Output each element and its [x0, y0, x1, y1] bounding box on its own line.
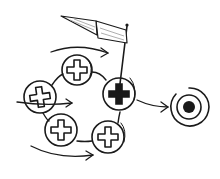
cycle-to-target-diagram — [0, 0, 220, 179]
exit-arrow-to-target — [137, 100, 168, 112]
diagram-canvas — [0, 0, 220, 179]
cross-node-5-flagged — [103, 78, 135, 110]
cross-icon — [98, 127, 118, 147]
cross-node-3 — [45, 114, 77, 146]
flag-icon — [61, 16, 129, 92]
cross-icon — [67, 60, 87, 80]
target-icon — [171, 88, 209, 126]
cross-icon — [51, 120, 71, 140]
cross-node-4 — [92, 121, 125, 153]
cross-node-1 — [62, 55, 92, 85]
cross-node-2 — [24, 81, 56, 113]
flow-arrow-bottom — [31, 146, 93, 160]
